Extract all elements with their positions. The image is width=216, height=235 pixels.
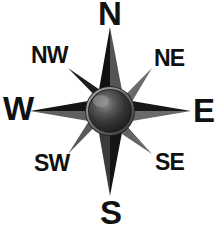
compass-center-sphere [85, 86, 135, 136]
compass-label-south: S [100, 196, 122, 229]
compass-label-west: W [3, 92, 34, 125]
compass-label-southeast: SE [155, 151, 184, 174]
compass-label-southwest: SW [34, 152, 69, 175]
compass-rose-figure: N NW NE W E SW SE S [0, 0, 216, 235]
compass-label-northwest: NW [31, 44, 68, 67]
compass-label-north: N [98, 0, 121, 30]
compass-label-northeast: NE [154, 47, 184, 70]
compass-label-east: E [193, 94, 215, 127]
